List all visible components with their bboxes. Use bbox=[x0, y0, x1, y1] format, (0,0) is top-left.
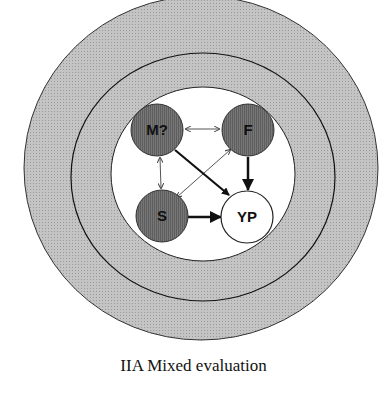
node-m: M? bbox=[131, 104, 183, 156]
node-m-label: M? bbox=[146, 121, 168, 138]
node-s-label: S bbox=[157, 207, 167, 224]
node-s: S bbox=[136, 190, 188, 242]
node-f: F bbox=[222, 104, 274, 156]
figure-caption: IIA Mixed evaluation bbox=[0, 356, 387, 376]
node-yp-label: YP bbox=[237, 208, 257, 225]
node-yp: YP bbox=[221, 191, 273, 243]
node-f-label: F bbox=[243, 121, 252, 138]
ecological-diagram: M? F S YP bbox=[0, 0, 387, 350]
